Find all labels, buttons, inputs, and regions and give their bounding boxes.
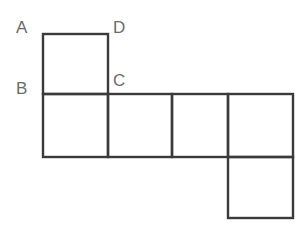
vertex-label-a: A xyxy=(16,19,27,36)
net-outline-group xyxy=(43,34,293,218)
vertex-label-b: B xyxy=(16,80,27,97)
square-middle-3 xyxy=(172,94,228,157)
square-middle-2 xyxy=(108,94,172,157)
cube-net-diagram: A D B C xyxy=(0,0,307,234)
square-middle-1 xyxy=(43,94,108,157)
square-middle-4 xyxy=(228,94,293,157)
square-top xyxy=(43,34,108,94)
vertex-label-c: C xyxy=(113,72,125,89)
vertex-label-d: D xyxy=(113,19,125,36)
cube-net-svg xyxy=(0,0,307,234)
square-bottom xyxy=(228,157,293,218)
